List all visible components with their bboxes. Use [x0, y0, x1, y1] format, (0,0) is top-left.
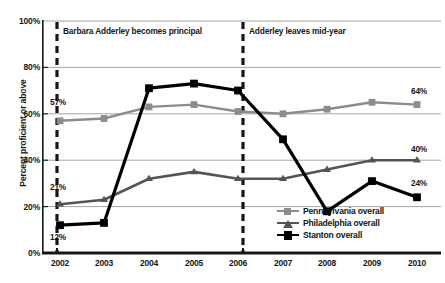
data-label-pennsylvania-2002: 57%	[50, 97, 66, 107]
legend-item-stanton-overall: Stanton overall	[277, 229, 407, 241]
x-tick-2008: 2008	[318, 258, 336, 268]
data-label-philadelphia-2002: 21%	[50, 182, 66, 192]
x-tick-2003: 2003	[95, 258, 113, 268]
x-tick-2002: 2002	[51, 258, 69, 268]
series-pennsylvania-overall	[57, 99, 421, 124]
x-tick-2005: 2005	[185, 258, 203, 268]
data-label-stanton-2002: 12%	[50, 232, 66, 242]
legend-swatch-philadelphia-icon	[277, 218, 299, 229]
x-tick-2009: 2009	[363, 258, 381, 268]
x-tick-2004: 2004	[140, 258, 158, 268]
legend-label-philadelphia: Philadelphia overall	[303, 218, 380, 228]
legend-item-philadelphia-overall: Philadelphia overall	[277, 217, 407, 229]
legend-swatch-stanton-icon	[277, 230, 299, 241]
x-tick-2006: 2006	[229, 258, 247, 268]
legend-swatch-pennsylvania-icon	[277, 206, 299, 217]
annotation-adderley-arrives: Barbara Adderley becomes principal	[63, 26, 202, 36]
legend-label-pennsylvania: Pennsylvania overall	[303, 206, 384, 216]
annotation-adderley-leaves: Adderley leaves mid-year	[249, 26, 345, 36]
legend-label-stanton: Stanton overall	[303, 230, 362, 240]
x-tick-2010: 2010	[408, 258, 426, 268]
x-tick-2007: 2007	[274, 258, 292, 268]
legend-item-pennsylvania-overall: Pennsylvania overall	[277, 205, 407, 217]
chart-container: Percent proficient or above 100% 80% 60%…	[0, 0, 445, 283]
data-label-pennsylvania-2010: 64%	[411, 86, 427, 96]
data-label-stanton-2010: 24%	[411, 178, 427, 188]
chart-legend: Pennsylvania overall Philadelphia overal…	[277, 205, 407, 241]
data-label-philadelphia-2010: 40%	[411, 144, 427, 154]
